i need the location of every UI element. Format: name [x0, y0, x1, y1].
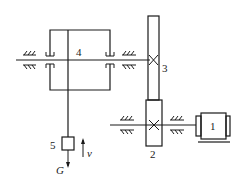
weight-arrow-icon [66, 150, 70, 168]
label-3: 3 [162, 62, 168, 74]
label-1: 1 [210, 120, 216, 132]
label-2: 2 [150, 148, 156, 160]
velocity-arrow-icon [81, 138, 85, 157]
label-4: 4 [76, 46, 82, 58]
hoist-schematic: 4 3 2 1 5 G [0, 0, 248, 191]
load-block-5 [62, 137, 74, 150]
label-G: G [56, 164, 64, 176]
gear-3 [148, 16, 159, 100]
label-5: 5 [50, 139, 56, 151]
gear-2 [146, 100, 162, 146]
label-v: v [87, 147, 92, 159]
